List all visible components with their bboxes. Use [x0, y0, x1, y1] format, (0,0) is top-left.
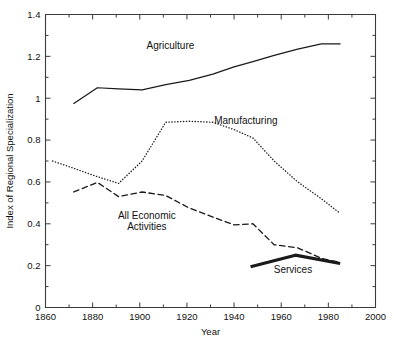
x-axis-tick-label: 1940: [224, 311, 245, 322]
plot-frame: [46, 15, 376, 308]
x-axis-ticks: [46, 15, 376, 308]
data-series-group: [53, 44, 341, 267]
axis-frame: [46, 15, 376, 308]
y-axis-tick-label: 0.8: [27, 134, 40, 145]
y-axis-tick-label: 1: [35, 93, 40, 104]
series-line-agriculture: [74, 44, 340, 104]
x-axis-tick-label: 1900: [129, 311, 150, 322]
x-axis-tick-label: 1960: [271, 311, 292, 322]
series-line-all-economic-activities: [74, 182, 340, 262]
y-axis-tick-label: 1.4: [27, 9, 40, 20]
y-axis-title: Index of Regional Specialization: [4, 93, 15, 228]
x-axis-tick-label: 1920: [176, 311, 197, 322]
y-axis-tick-label: 0.4: [27, 218, 40, 229]
line-chart-svg: 18601880190019201940196019802000 00.20.4…: [0, 0, 394, 347]
series-label-services: Services: [274, 264, 312, 275]
y-axis-ticks: [46, 15, 376, 308]
y-axis-tick-label: 0.6: [27, 176, 40, 187]
y-axis-tick-labels: 00.20.40.60.811.21.4: [27, 9, 40, 313]
x-axis-tick-label: 2000: [365, 311, 386, 322]
chart-figure: 18601880190019201940196019802000 00.20.4…: [0, 0, 394, 347]
series-label-agriculture: Agriculture: [147, 40, 195, 51]
y-axis-tick-label: 1.2: [27, 51, 40, 62]
x-axis-tick-labels: 18601880190019201940196019802000: [35, 311, 386, 322]
y-axis-tick-label: 0.2: [27, 260, 40, 271]
series-annotation-group: AgricultureManufacturingAll EconomicActi…: [118, 40, 312, 275]
series-line-manufacturing: [53, 121, 341, 213]
series-label-manufacturing: Manufacturing: [214, 115, 277, 126]
y-axis-tick-label: 0: [35, 302, 40, 313]
x-axis-tick-label: 1980: [318, 311, 339, 322]
x-axis-title: Year: [201, 326, 220, 337]
x-axis-tick-label: 1880: [82, 311, 103, 322]
series-label-all-economic-activities: All EconomicActivities: [118, 210, 176, 233]
